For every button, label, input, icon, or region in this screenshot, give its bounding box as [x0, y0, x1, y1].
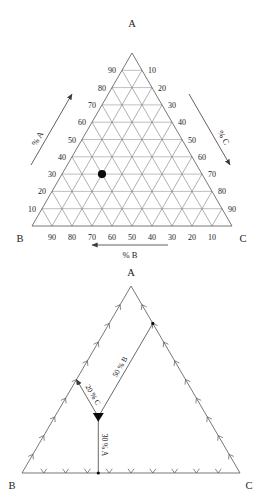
chevron-bottom-edge-3 — [84, 469, 90, 473]
left-tick-90: 90 — [108, 66, 116, 75]
ternary-grid-svg: A B C 908070605040302010 102030405060708… — [0, 0, 261, 260]
left-tick-50: 50 — [68, 136, 76, 145]
right-tick-80: 80 — [218, 187, 226, 196]
right-tick-40: 40 — [178, 118, 186, 127]
data-point-marker-lower — [93, 413, 104, 422]
bottom-tick-20: 20 — [188, 233, 196, 242]
right-tick-10: 10 — [148, 66, 156, 75]
bottom-tick-40: 40 — [148, 233, 156, 242]
vertex-label-b: B — [16, 233, 23, 244]
grid-lines-left-parallel — [52, 70, 222, 226]
chevron-bottom-edge-4 — [106, 469, 112, 473]
bottom-tick-50: 50 — [128, 233, 136, 242]
ternary-construction-figure: A B C 20 % C 50 % B 30 % A — [0, 260, 261, 499]
callout-endpoint-b — [151, 322, 154, 325]
vertex-label-c-lower: C — [245, 480, 252, 491]
triangle-outline-lower — [22, 286, 240, 473]
vertex-label-a-lower: A — [127, 267, 135, 278]
callout-label-c: 20 % C — [83, 383, 102, 407]
data-point-marker — [98, 170, 106, 178]
callout-endpoint-a — [97, 471, 100, 474]
chevron-bottom-edge-2 — [63, 469, 69, 473]
left-tick-10: 10 — [28, 205, 36, 214]
callout-line-b — [98, 323, 153, 417]
right-tick-30: 30 — [168, 101, 176, 110]
chevron-bottom-edge-5 — [128, 469, 134, 473]
ternary-grid-figure: A B C 908070605040302010 102030405060708… — [0, 0, 261, 260]
right-tick-90: 90 — [228, 205, 236, 214]
right-tick-70: 70 — [208, 170, 216, 179]
right-tick-50: 50 — [188, 136, 196, 145]
bottom-tick-90: 90 — [48, 233, 56, 242]
bottom-tick-10: 10 — [208, 233, 216, 242]
bottom-tick-30: 30 — [168, 233, 176, 242]
bottom-tick-60: 60 — [108, 233, 116, 242]
bottom-axis-title: % B — [123, 250, 138, 260]
bottom-tick-80: 80 — [68, 233, 76, 242]
chevron-bottom-edge-8 — [193, 469, 199, 473]
vertex-label-c: C — [239, 233, 246, 244]
vertex-label-b-lower: B — [8, 480, 15, 491]
left-tick-60: 60 — [78, 118, 86, 127]
edge-direction-chevrons — [28, 305, 234, 473]
left-tick-70: 70 — [88, 101, 96, 110]
chevron-bottom-edge-9 — [215, 469, 221, 473]
vertex-label-a: A — [128, 18, 136, 29]
right-tick-60: 60 — [198, 153, 206, 162]
ternary-diagram-page: A B C 908070605040302010 102030405060708… — [0, 0, 261, 499]
right-tick-20: 20 — [158, 84, 166, 93]
left-axis-title: % A — [29, 129, 46, 148]
grid-lines-right-parallel — [42, 70, 212, 226]
left-tick-20: 20 — [38, 187, 46, 196]
callout-label-a: 30 % A — [100, 434, 109, 457]
left-tick-80: 80 — [98, 84, 106, 93]
left-tick-30: 30 — [48, 170, 56, 179]
callout-label-b: 50 % B — [110, 355, 129, 379]
left-tick-40: 40 — [58, 153, 66, 162]
bottom-tick-70: 70 — [88, 233, 96, 242]
chevron-bottom-edge-6 — [150, 469, 156, 473]
chevron-bottom-edge-1 — [41, 469, 47, 473]
chevron-bottom-edge-7 — [172, 469, 178, 473]
ternary-construction-svg: A B C 20 % C 50 % B 30 % A — [0, 260, 261, 499]
bottom-axis-tick-labels: 908070605040302010 — [48, 233, 216, 242]
